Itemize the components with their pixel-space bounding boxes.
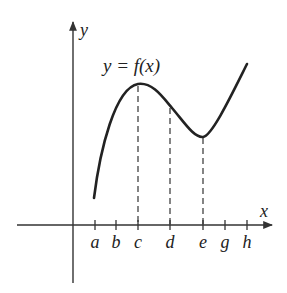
x-axis-label: x: [259, 201, 268, 221]
graph-diagram: x y a b c d e g h y = f(x): [0, 0, 287, 293]
tick-label-d: d: [166, 232, 176, 252]
y-axis-label: y: [78, 20, 88, 40]
tick-label-c: c: [134, 232, 142, 252]
tick-label-h: h: [243, 232, 252, 252]
tick-label-e: e: [199, 232, 207, 252]
tick-label-g: g: [221, 232, 230, 252]
tick-label-a: a: [91, 232, 100, 252]
function-label: y = f(x): [101, 55, 160, 77]
tick-label-b: b: [112, 232, 121, 252]
